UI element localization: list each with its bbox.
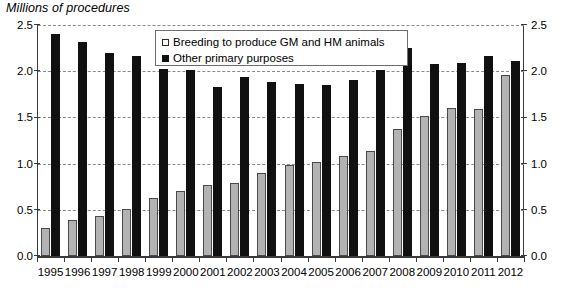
x-tick-label: 1999 [146,266,172,278]
x-tick-mark [145,256,146,262]
x-tick-label: 2004 [281,266,307,278]
x-tick-label: 1997 [92,266,118,278]
x-tick-mark [253,256,254,262]
bar [132,56,141,256]
x-tick-mark [64,256,65,262]
bar [285,165,294,256]
bar [474,109,483,256]
x-tick-label: 2008 [389,266,415,278]
y-tick-label: 2.5 [531,19,547,31]
bar-group [470,25,497,256]
bar [376,70,385,256]
x-tick-mark [362,256,363,262]
legend-label-other: Other primary purposes [173,52,294,64]
y-tick-label: 1.0 [531,158,547,170]
chart-title: Millions of procedures [6,1,130,15]
bar-group [37,25,64,256]
bar [393,129,402,256]
bar [95,216,104,256]
x-tick-mark [172,256,173,262]
bar [51,34,60,256]
bar [339,156,348,256]
legend-swatch-breeding-icon [162,39,169,46]
x-tick-label: 2001 [200,266,226,278]
bar [105,53,114,256]
bar [511,61,520,256]
legend-item-other: Other primary purposes [162,50,407,66]
x-tick-mark [308,256,309,262]
bar [349,80,358,256]
x-tick-mark [443,256,444,262]
bar-group [497,25,524,256]
x-tick-label: 2006 [335,266,361,278]
bar [257,173,266,256]
bar [176,191,185,256]
bar-group [91,25,118,256]
bar [501,75,510,256]
x-tick-mark [416,256,417,262]
y-tick-label: 1.5 [17,111,33,123]
x-tick-mark [226,256,227,262]
bar [122,209,131,256]
bar [295,84,304,256]
y-tick-label: 1.0 [17,158,33,170]
x-tick-label: 2009 [417,266,443,278]
x-tick-mark [470,256,471,262]
x-tick-label: 2011 [471,266,496,278]
x-tick-label: 2007 [362,266,388,278]
legend-label-breeding: Breeding to produce GM and HM animals [173,36,385,48]
bar [78,42,87,256]
y-tick-label: 0.5 [531,204,547,216]
x-tick-mark [389,256,390,262]
bar [240,77,249,256]
y-tick-label: 2.5 [17,19,33,31]
bar [484,56,493,256]
x-tick-label: 2002 [227,266,253,278]
bar [68,220,77,256]
y-tick-label: 2.0 [531,65,547,77]
x-tick-label: 2003 [254,266,280,278]
bar [149,198,158,256]
x-tick-mark [118,256,119,262]
x-tick-label: 1996 [65,266,91,278]
bar [403,48,412,256]
bar [213,87,222,256]
bar [203,185,212,256]
x-tick-mark [37,256,38,262]
bar-group [443,25,470,256]
legend-swatch-other-icon [162,55,169,62]
x-tick-label: 2005 [308,266,334,278]
bar [420,116,429,256]
bar [41,228,50,256]
x-tick-label: 1998 [119,266,145,278]
x-tick-label: 1995 [38,266,64,278]
x-tick-mark [335,256,336,262]
x-tick-label: 2010 [444,266,470,278]
bar [447,108,456,256]
bar [267,82,276,256]
x-tick-label: 2000 [173,266,199,278]
bar [366,151,375,256]
bar-group [118,25,145,256]
bar [322,85,331,256]
chart-legend: Breeding to produce GM and HM animals Ot… [155,30,408,66]
bar-chart: Millions of procedures 0.00.51.01.52.02.… [0,0,564,290]
bar [186,70,195,256]
legend-item-breeding: Breeding to produce GM and HM animals [162,34,407,50]
bar [312,162,321,256]
x-tick-label: 2012 [498,266,524,278]
x-tick-mark [281,256,282,262]
y-tick-label: 0.0 [531,250,547,262]
x-tick-mark [497,256,498,262]
bar-group [64,25,91,256]
y-tick-label: 0.5 [17,204,33,216]
y-tick-label: 0.0 [17,250,33,262]
x-tick-mark [199,256,200,262]
bar [230,183,239,256]
y-tick-label: 2.0 [17,65,33,77]
x-tick-mark [91,256,92,262]
bar-group [416,25,443,256]
y-tick-label: 1.5 [531,111,547,123]
bar [159,69,168,256]
bar [457,63,466,256]
